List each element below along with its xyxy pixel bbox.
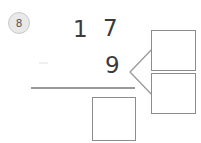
subtrahend-ones-digit: 9 [105, 54, 120, 77]
problem-number-badge: 8 [8, 12, 30, 34]
answer-rule-line [31, 87, 135, 89]
worksheet-page: 8 1 7 9 [0, 0, 201, 143]
minuend-tens-digit: 1 [73, 18, 88, 41]
minuend-ones-digit: 7 [103, 17, 118, 40]
answer-box[interactable] [92, 97, 136, 141]
decomposition-part-box-1[interactable] [151, 30, 196, 71]
decomposition-part-box-2[interactable] [151, 73, 196, 114]
problem-number-label: 8 [16, 18, 22, 29]
scan-smudge [39, 62, 48, 64]
